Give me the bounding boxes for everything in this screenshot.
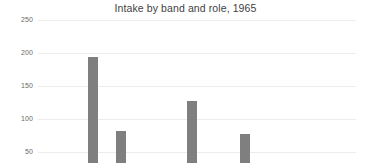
gridline [38,20,356,21]
bar [187,101,197,163]
bar [116,131,126,163]
gridline [38,86,356,87]
gridline [38,152,356,153]
gridline [38,119,356,120]
y-axis-tick-label: 50 [0,148,33,155]
plot-area: 25020015010050 [0,0,371,163]
y-axis-tick-label: 200 [0,49,33,56]
bar [240,134,250,163]
y-axis-tick-label: 250 [0,16,33,23]
gridline [38,53,356,54]
bar [88,57,98,163]
y-axis-tick-label: 100 [0,115,33,122]
bar-chart: Intake by band and role, 1965 2502001501… [0,0,371,163]
y-axis-tick-label: 150 [0,82,33,89]
